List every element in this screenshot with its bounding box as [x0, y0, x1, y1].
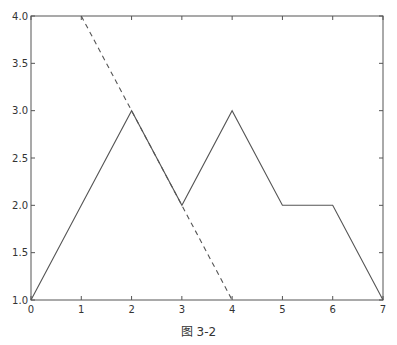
figure-caption: 图 3-2 — [0, 322, 397, 339]
line-chart: 01234567 1.01.52.02.53.03.54.0 — [0, 0, 397, 345]
series-solid-line — [31, 111, 383, 300]
x-tick-label: 6 — [330, 304, 336, 315]
x-tick-label: 2 — [128, 304, 134, 315]
y-tick-label: 1.5 — [12, 247, 28, 258]
y-tick-label: 2.5 — [12, 153, 28, 164]
y-tick-label: 3.0 — [12, 105, 28, 116]
x-tick-label: 4 — [229, 304, 235, 315]
x-tick-label: 7 — [380, 304, 386, 315]
x-tick-label: 1 — [78, 304, 84, 315]
y-tick-label: 2.0 — [12, 200, 28, 211]
y-axis-tick-labels: 1.01.52.02.53.03.54.0 — [12, 11, 28, 306]
y-tick-label: 1.0 — [12, 295, 28, 306]
x-tick-label: 0 — [28, 304, 34, 315]
x-axis-tick-labels: 01234567 — [28, 304, 386, 315]
y-tick-label: 3.5 — [12, 58, 28, 69]
x-tick-label: 3 — [179, 304, 185, 315]
y-tick-label: 4.0 — [12, 11, 28, 22]
series-layer — [31, 16, 383, 300]
x-tick-label: 5 — [279, 304, 285, 315]
